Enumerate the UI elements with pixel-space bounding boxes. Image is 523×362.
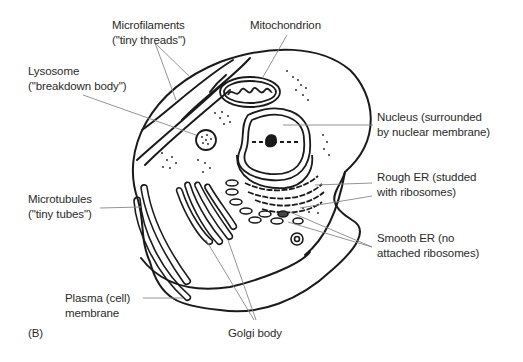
label-line: ("tiny threads") <box>112 33 186 48</box>
microtubules <box>134 185 190 300</box>
label-line: ("breakdown body") <box>28 79 126 94</box>
label-line: Microtubules <box>28 192 92 207</box>
lysosome <box>196 130 216 150</box>
label-plasma-membrane: Plasma (cell) membrane <box>65 291 130 321</box>
rough-er <box>245 176 324 213</box>
label-line: Microfilaments <box>112 18 186 33</box>
label-nucleus: Nucleus (surrounded by nuclear membrane) <box>377 110 490 140</box>
label-line: Golgi body <box>228 326 282 341</box>
label-mitochondrion: Mitochondrion <box>250 18 321 33</box>
label-microfilaments: Microfilaments ("tiny threads") <box>112 18 186 48</box>
label-line: ("tiny tubes") <box>28 207 92 222</box>
label-line: with ribosomes) <box>377 185 476 200</box>
label-line: membrane <box>65 306 130 321</box>
label-line: Lysosome <box>28 64 126 79</box>
nucleus <box>237 108 312 188</box>
vesicle <box>291 233 303 245</box>
golgi-body <box>177 182 237 244</box>
label-line: Nucleus (surrounded <box>377 110 490 125</box>
mitochondrion <box>220 77 280 107</box>
label-line: by nuclear membrane) <box>377 125 490 140</box>
label-line: Plasma (cell) <box>65 291 130 306</box>
label-lysosome: Lysosome ("breakdown body") <box>28 64 126 94</box>
label-line: Rough ER (studded <box>377 170 476 185</box>
label-rough-er: Rough ER (studded with ribosomes) <box>377 170 476 200</box>
label-line: (B) <box>28 326 43 341</box>
label-smooth-er: Smooth ER (no attached ribosomes) <box>377 231 479 261</box>
label-golgi: Golgi body <box>228 326 282 341</box>
label-microtubules: Microtubules ("tiny tubes") <box>28 192 92 222</box>
label-line: Smooth ER (no <box>377 231 479 246</box>
label-line: attached ribosomes) <box>377 246 479 261</box>
label-line: Mitochondrion <box>250 18 321 33</box>
panel-label: (B) <box>28 326 43 341</box>
